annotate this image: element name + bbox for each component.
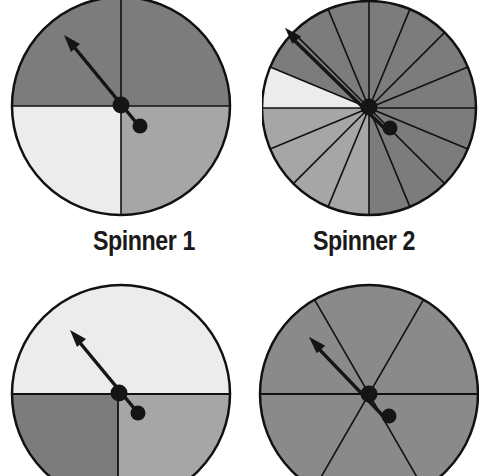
spinner-2 [262, 0, 479, 222]
section-top-right [121, 0, 230, 106]
section-top-left [12, 0, 121, 106]
spinner-1 [10, 0, 232, 222]
section-top-half [12, 285, 230, 394]
section-bottom-left [12, 106, 121, 215]
spinner-3 [10, 283, 232, 476]
section-bottom-left [12, 394, 118, 476]
spinner-1-label: Spinner 1 [93, 226, 195, 257]
spinner-2-label: Spinner 2 [313, 226, 415, 257]
spinner-4 [258, 283, 479, 476]
